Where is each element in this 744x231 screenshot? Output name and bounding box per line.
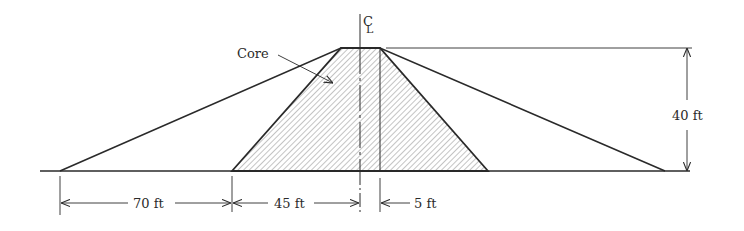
core-label: Core [237, 46, 269, 61]
dim-70-label: 70 ft [133, 196, 164, 211]
dim-45-label: 45 ft [274, 196, 305, 211]
height-dimension-label: 40 ft [672, 108, 703, 123]
dim-5-label: 5 ft [414, 196, 437, 211]
dam-diagram: CL Core 40 ft 70 ft 45 ft 5 ft [0, 0, 744, 231]
centerline-label: CL [363, 14, 374, 36]
